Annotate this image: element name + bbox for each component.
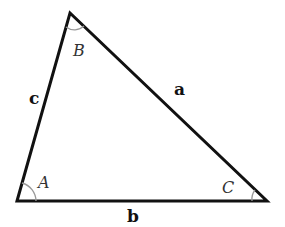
angle-arc-a bbox=[22, 183, 36, 201]
side-label-a: a bbox=[174, 79, 185, 99]
angle-arc-b bbox=[66, 26, 84, 30]
angle-label-b: B bbox=[72, 41, 85, 60]
angle-arc-c bbox=[252, 190, 255, 201]
angle-label-a: A bbox=[36, 173, 50, 192]
side-label-b: b bbox=[127, 206, 139, 226]
angle-label-c: C bbox=[222, 178, 234, 197]
triangle-diagram: B A C c a b bbox=[0, 0, 285, 227]
side-label-c: c bbox=[29, 88, 39, 108]
triangle-abc bbox=[17, 13, 267, 201]
